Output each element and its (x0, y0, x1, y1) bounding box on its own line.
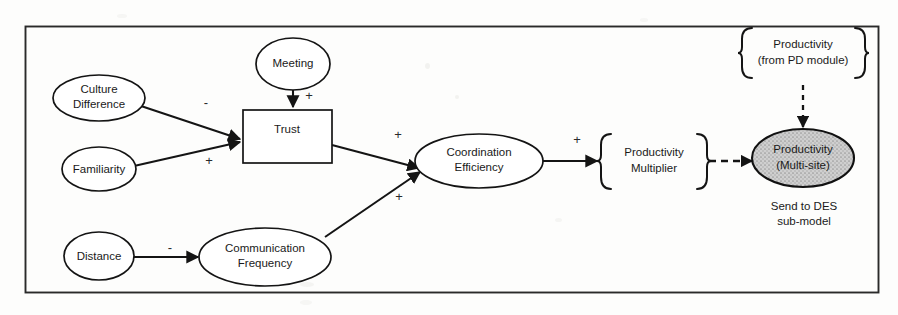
node-meeting[interactable]: Meeting (256, 38, 330, 90)
productivity-multiplier-label-line2: Multiplier (631, 162, 677, 174)
productivity-multisite-ellipse (752, 129, 854, 187)
productivity-multisite-label-line2: (Multi-site) (776, 159, 830, 171)
edge-familiarity-to-trust (134, 142, 240, 166)
familiarity-label: Familiarity (73, 163, 126, 175)
sign-coordination-to-multiplier: + (573, 132, 581, 147)
coordination-efficiency-label-line1: Coordination (446, 146, 511, 158)
productivity-multiplier-label-line1: Productivity (624, 146, 684, 158)
node-productivity-from-pd-module[interactable]: Productivity (from PD module) (738, 28, 869, 78)
meeting-label: Meeting (273, 57, 314, 69)
trust-label: Trust (274, 123, 301, 135)
distance-label: Distance (77, 250, 122, 262)
edge-culture-to-trust (141, 106, 240, 139)
productivity-multisite-label-line1: Productivity (773, 143, 833, 155)
productivity-pd-bracket-left (738, 28, 752, 78)
sign-trust-to-coordination: + (394, 127, 402, 142)
node-coordination-efficiency[interactable]: Coordination Efficiency (415, 134, 543, 188)
edge-trust-to-coordination (332, 145, 419, 168)
productivity-pd-label-line2: (from PD module) (758, 54, 849, 66)
sign-communication-to-coordination: + (395, 189, 403, 204)
productivity-pd-bracket-right (855, 28, 869, 78)
node-productivity-multisite[interactable]: Productivity (Multi-site) (752, 129, 854, 187)
annotation-send-to-des: Send to DES sub-model (771, 200, 838, 227)
send-to-des-line2: sub-model (777, 215, 831, 227)
edge-communication-to-coordination (325, 172, 420, 237)
sign-culture-to-trust: - (204, 95, 208, 110)
node-familiarity[interactable]: Familiarity (62, 147, 136, 191)
culture-difference-label-line2: Difference (73, 98, 125, 110)
sign-distance-to-communication: - (168, 240, 172, 255)
sign-meeting-to-trust: + (305, 88, 313, 103)
culture-difference-label-line1: Culture (80, 83, 117, 95)
causal-loop-diagram: Culture Difference Familiarity Meeting T… (0, 0, 898, 315)
trust-box (243, 110, 332, 163)
node-communication-frequency[interactable]: Communication Frequency (199, 228, 331, 286)
communication-frequency-label-line2: Frequency (238, 257, 293, 269)
sign-familiarity-to-trust: + (205, 153, 213, 168)
node-trust[interactable]: Trust (243, 110, 332, 163)
communication-frequency-label-line1: Communication (225, 242, 305, 254)
productivity-pd-label-line1: Productivity (773, 38, 833, 50)
node-distance[interactable]: Distance (64, 232, 134, 280)
productivity-multiplier-bracket-right (697, 134, 711, 189)
diagram-canvas: Culture Difference Familiarity Meeting T… (0, 0, 898, 315)
productivity-multiplier-bracket-left (597, 134, 611, 189)
node-culture-difference[interactable]: Culture Difference (53, 75, 145, 121)
coordination-efficiency-label-line2: Efficiency (454, 161, 503, 173)
node-productivity-multiplier[interactable]: Productivity Multiplier (597, 134, 711, 189)
send-to-des-line1: Send to DES (771, 200, 838, 212)
